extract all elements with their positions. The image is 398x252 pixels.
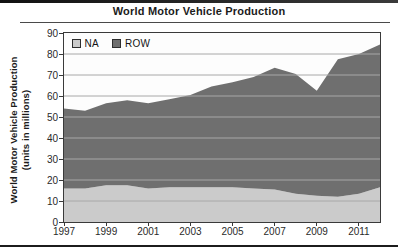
x-tick-mark — [64, 222, 65, 226]
legend-label-row: ROW — [125, 38, 150, 49]
y-tick-label: 90 — [32, 28, 58, 39]
x-tick-label: 2001 — [132, 226, 164, 237]
legend-swatch-na — [72, 39, 81, 48]
y-tick-label: 10 — [32, 196, 58, 207]
x-tick-label: 1997 — [48, 226, 80, 237]
y-axis-title-line1: World Motor Vehicle Production — [8, 45, 20, 215]
y-tick-label: 40 — [32, 133, 58, 144]
x-tick-label: 1999 — [90, 226, 122, 237]
x-tick-label: 2007 — [259, 226, 291, 237]
x-tick-label: 2009 — [301, 226, 333, 237]
x-tick-label: 2005 — [217, 226, 249, 237]
x-tick-mark — [358, 222, 359, 226]
y-tick-label: 30 — [32, 154, 58, 165]
y-tick-mark — [59, 201, 64, 202]
legend-item-row: ROW — [112, 38, 150, 49]
plot-area: NAROW — [63, 32, 381, 223]
y-tick-mark — [59, 159, 64, 160]
y-tick-label: 80 — [32, 49, 58, 60]
legend-item-na: NA — [72, 38, 100, 49]
y-tick-mark — [59, 180, 64, 181]
x-tick-mark — [106, 222, 107, 226]
legend-label-na: NA — [85, 38, 100, 49]
y-tick-label: 60 — [32, 91, 58, 102]
x-tick-mark — [316, 222, 317, 226]
legend: NAROW — [72, 38, 151, 49]
y-tick-mark — [59, 138, 64, 139]
chart-title: World Motor Vehicle Production — [0, 5, 398, 17]
y-tick-mark — [59, 96, 64, 97]
y-tick-mark — [59, 33, 64, 34]
top-rule — [0, 0, 398, 3]
stacked-area-chart — [64, 33, 380, 222]
x-tick-mark — [190, 222, 191, 226]
bottom-rule — [0, 245, 398, 247]
y-tick-mark — [59, 117, 64, 118]
x-tick-label: 2011 — [343, 226, 375, 237]
y-axis-title-line2: (units in millions) — [20, 45, 32, 215]
y-tick-mark — [59, 75, 64, 76]
title-underline — [20, 22, 390, 24]
legend-swatch-row — [112, 39, 121, 48]
x-tick-mark — [148, 222, 149, 226]
x-tick-mark — [274, 222, 275, 226]
y-tick-mark — [59, 54, 64, 55]
x-tick-mark — [232, 222, 233, 226]
y-axis-title: World Motor Vehicle Production (units in… — [8, 45, 32, 215]
y-tick-label: 20 — [32, 175, 58, 186]
y-tick-label: 70 — [32, 70, 58, 81]
row-area — [64, 44, 380, 196]
y-tick-label: 50 — [32, 112, 58, 123]
x-tick-label: 2003 — [174, 226, 206, 237]
